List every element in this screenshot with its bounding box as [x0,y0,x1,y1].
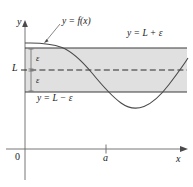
origin-label: 0 [15,152,20,162]
limit-epsilon-band-figure: y x 0 a L y = f(x) y = L + ε y = L − ε ε… [0,0,193,187]
function-curve-label: y = f(x) [62,17,91,27]
epsilon-upper-label: ε [36,54,39,63]
upper-band-label: y = L + ε [127,29,162,39]
x-axis-arrow-icon [180,146,188,152]
y-tick-label-L: L [12,63,18,73]
y-axis-arrow-icon [22,20,28,27]
function-label-leader-line [46,24,60,41]
y-axis-label: y [17,17,21,27]
epsilon-lower-label: ε [36,76,39,85]
figure-canvas [0,0,193,187]
lower-band-label: y = L − ε [37,94,72,104]
x-axis-label: x [176,154,180,164]
function-label-arrow-icon [44,39,49,43]
x-tick-label-a: a [103,153,108,163]
